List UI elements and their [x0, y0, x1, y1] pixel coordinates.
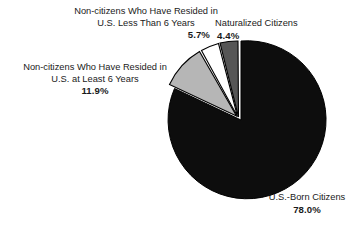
pie-value-noncitizen-under6: 5.7% — [66, 29, 226, 41]
pie-label-line-1: Non-citizens Who Have Resided in — [6, 62, 184, 74]
pie-value-naturalized: 4.4% — [215, 30, 360, 42]
pie-label-line-2: U.S. at Least 6 Years — [6, 74, 184, 86]
pie-label-naturalized: Naturalized Citizens 4.4% — [215, 18, 360, 41]
pie-label-line-2: U.S. Less Than 6 Years — [66, 18, 226, 30]
pie-label-line-1: Naturalized Citizens — [215, 18, 360, 30]
pie-label-line-1: U.S.-Born Citizens — [258, 192, 356, 204]
pie-value-noncitizen-6plus: 11.9% — [6, 85, 184, 97]
pie-label-line-1: Non-citizens Who Have Resided in — [66, 6, 226, 18]
pie-value-us-born: 78.0% — [258, 204, 356, 216]
pie-label-noncitizen-under6: Non-citizens Who Have Resided in U.S. Le… — [66, 6, 226, 41]
pie-label-noncitizen-6plus: Non-citizens Who Have Resided in U.S. at… — [6, 62, 184, 97]
pie-chart-figure: Non-citizens Who Have Resided in U.S. Le… — [0, 0, 364, 226]
pie-label-us-born: U.S.-Born Citizens 78.0% — [258, 192, 356, 215]
